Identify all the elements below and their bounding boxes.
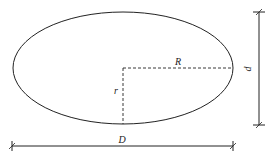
minor-diameter-label: d <box>242 66 253 72</box>
major-radius-label: R <box>174 56 181 67</box>
major-diameter-label: D <box>117 134 126 145</box>
ellipse-diagram: R r D d <box>0 0 270 160</box>
minor-radius-label: r <box>114 85 118 96</box>
